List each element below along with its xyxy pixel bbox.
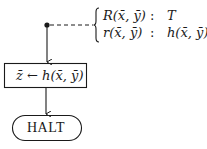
halt-label: HALT bbox=[27, 120, 65, 136]
assignment-text: z̄ ← h(x̄, ȳ) bbox=[16, 69, 83, 82]
annotation-row-2-value: h(x̄, ȳ) bbox=[167, 26, 207, 39]
annotation-row-1-value: T bbox=[167, 9, 176, 22]
annotation-row-1-separator: : bbox=[150, 9, 154, 22]
annotation-row-2-predicate: r(x̄, ȳ) bbox=[103, 26, 142, 39]
annotation-row-2-separator: : bbox=[150, 26, 154, 39]
annotation-brace bbox=[94, 8, 100, 42]
annotation-row-1-predicate: R(x̄, ȳ) bbox=[103, 9, 146, 22]
